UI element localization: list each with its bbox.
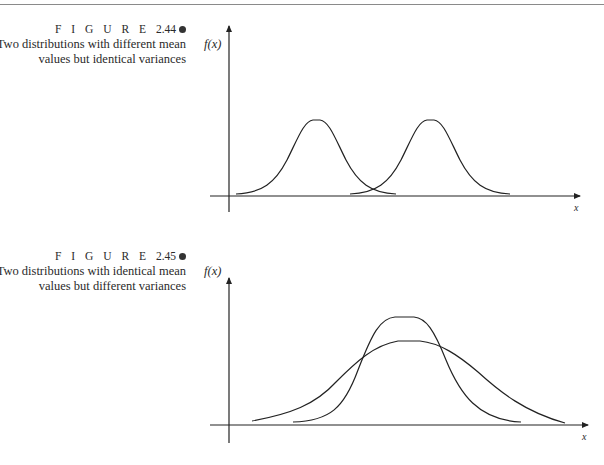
curve-large-variance (252, 341, 565, 423)
charts-canvas (0, 0, 604, 465)
figure-2-44-plot (210, 26, 580, 212)
curve-small-variance (293, 317, 521, 422)
figure-2-45-plot (210, 278, 588, 443)
curve-distribution-1 (236, 120, 396, 194)
curve-distribution-2 (350, 120, 510, 194)
